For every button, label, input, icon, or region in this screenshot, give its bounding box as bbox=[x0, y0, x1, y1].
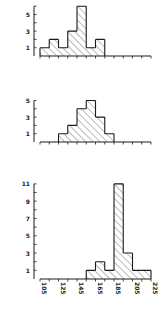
histogram-figure: 135 135 1357911 105125145165185205225 bbox=[0, 0, 167, 311]
y-tick-label: 3 bbox=[26, 28, 30, 35]
histogram-bar bbox=[105, 270, 114, 279]
x-axis-tick-labels: 105125145165185205225 bbox=[41, 282, 159, 295]
y-tick-label: 5 bbox=[26, 11, 30, 18]
histogram-bar bbox=[96, 39, 105, 56]
y-tick-label: 9 bbox=[26, 198, 30, 205]
histogram-bar bbox=[114, 184, 123, 279]
histogram-bar bbox=[49, 39, 58, 56]
histogram-bar bbox=[133, 270, 142, 279]
histogram-bar bbox=[86, 101, 95, 143]
y-tick-label: 3 bbox=[26, 114, 30, 121]
histogram-bar bbox=[86, 48, 95, 56]
x-tick-label: 145 bbox=[78, 282, 85, 295]
histogram-bar bbox=[86, 270, 95, 279]
y-tick-label: 5 bbox=[26, 232, 30, 239]
y-tick-label: 1 bbox=[26, 267, 30, 274]
x-tick-label: 105 bbox=[41, 282, 48, 295]
histogram-bar bbox=[59, 48, 68, 56]
y-tick-label: 3 bbox=[26, 250, 30, 257]
y-tick-label: 1 bbox=[26, 130, 30, 137]
histogram-bar bbox=[68, 125, 77, 142]
x-tick-label: 125 bbox=[60, 282, 67, 295]
x-tick-label: 205 bbox=[134, 282, 141, 295]
x-tick-label: 165 bbox=[97, 282, 104, 295]
histogram-bar bbox=[77, 109, 86, 142]
x-tick-label: 185 bbox=[115, 282, 122, 295]
stacked-histograms: 135 135 1357911 105125145165185205225 bbox=[0, 0, 167, 311]
histogram-panel-middle: 135 bbox=[26, 97, 151, 145]
histogram-bar bbox=[123, 253, 132, 279]
y-tick-label: 5 bbox=[26, 97, 30, 104]
histogram-bar bbox=[77, 6, 86, 56]
histogram-bar bbox=[40, 48, 49, 56]
histogram-bar bbox=[68, 31, 77, 56]
histogram-bar bbox=[96, 117, 105, 142]
histogram-bar bbox=[142, 270, 151, 279]
histogram-bar bbox=[96, 262, 105, 279]
histogram-panel-bottom: 1357911 bbox=[22, 180, 151, 281]
y-tick-label: 11 bbox=[22, 180, 30, 187]
y-tick-label: 7 bbox=[26, 215, 30, 222]
y-tick-label: 1 bbox=[26, 44, 30, 51]
histogram-bar bbox=[105, 134, 114, 142]
x-tick-label: 225 bbox=[152, 282, 159, 295]
histogram-bar bbox=[59, 134, 68, 142]
histogram-panel-top: 135 bbox=[26, 6, 151, 58]
